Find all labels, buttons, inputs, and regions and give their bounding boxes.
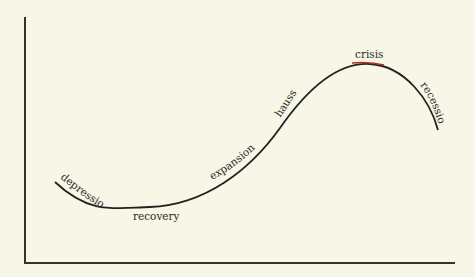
business-cycle-diagram: depression recovery expansion hausse cri… xyxy=(0,0,475,277)
phase-label-recession: recession xyxy=(0,0,448,125)
cycle-curve xyxy=(55,64,438,208)
phase-label-hausse: hausse xyxy=(0,0,298,119)
phase-label-expansion: expansion xyxy=(207,141,257,182)
phase-label-recovery: recovery xyxy=(133,210,180,222)
phase-label-crisis: crisis xyxy=(355,48,383,60)
phase-label-depression: depression xyxy=(0,0,107,210)
